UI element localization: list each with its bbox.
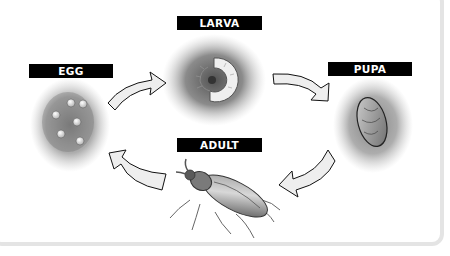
stage-label-egg: EGG <box>29 64 113 78</box>
arrow-pupa-to-adult-icon <box>279 150 335 197</box>
arrow-larva-to-pupa-icon <box>273 74 329 101</box>
life-cycle-illustration <box>0 0 450 256</box>
stage-label-adult: ADULT <box>177 138 262 152</box>
arrow-adult-to-egg-icon <box>109 150 166 190</box>
adult-beetle-illustration <box>170 159 280 238</box>
pupa-illustration <box>333 77 413 173</box>
egg-illustration <box>30 78 110 172</box>
larva-illustration <box>162 34 266 126</box>
arrow-egg-to-larva-icon <box>108 72 166 110</box>
stage-label-larva: LARVA <box>177 16 262 30</box>
stage-label-pupa: PUPA <box>328 62 412 76</box>
